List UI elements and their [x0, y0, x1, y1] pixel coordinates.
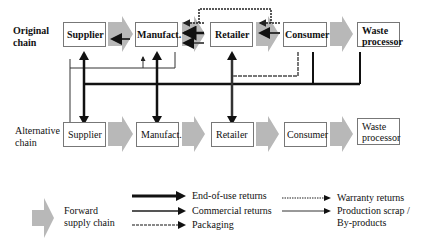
node-label: Consumer [287, 129, 328, 140]
alternative-chain-label: Alternative chain [15, 125, 60, 149]
original-manufacturer-box: Manufact. [135, 22, 178, 47]
legend-text: By-products [337, 217, 410, 229]
original-retailer-box: Retailer [210, 22, 253, 47]
node-label: Supplier [67, 29, 104, 40]
node-label: Manufact. [137, 29, 181, 40]
label-line: chain [13, 37, 49, 49]
label-line: Original [13, 25, 49, 37]
legend-production-scrap: Production scrap / By-products [337, 205, 410, 229]
legend-text: Forward [64, 205, 115, 217]
label-line: Alternative [15, 125, 60, 137]
node-label: Retailer [215, 29, 249, 40]
original-supplier-box: Supplier [63, 22, 106, 47]
alternative-manufacturer-box: Manufact. [136, 122, 179, 147]
alternative-retailer-box: Retailer [211, 122, 254, 147]
node-label: Waste [362, 121, 399, 132]
original-consumer-box: Consumer [283, 22, 327, 47]
node-label: Retailer [216, 129, 248, 140]
legend-text: supply chain [64, 217, 115, 229]
original-chain-label: Original chain [13, 25, 49, 49]
node-label: Supplier [68, 129, 102, 140]
node-label: Consumer [285, 29, 329, 40]
legend-end-of-use: End-of-use returns [192, 190, 267, 202]
legend-forward-label: Forward supply chain [64, 205, 115, 229]
node-label: Manufact. [141, 129, 182, 140]
legend-packaging: Packaging [192, 219, 234, 231]
legend-warranty: Warranty returns [337, 192, 404, 204]
node-label: processor [362, 36, 399, 47]
original-waste-processor-box: Waste processor [357, 22, 400, 47]
node-label: Waste [362, 25, 399, 36]
legend-forward-shape [32, 198, 54, 238]
legend-commercial: Commercial returns [192, 205, 272, 217]
alternative-consumer-box: Consumer [284, 122, 327, 147]
alternative-supplier-box: Supplier [63, 122, 106, 147]
legend-text: Production scrap / [337, 205, 410, 217]
alternative-waste-processor-box: Waste processor [357, 118, 400, 145]
label-line: chain [15, 137, 60, 149]
node-label: processor [362, 132, 399, 143]
